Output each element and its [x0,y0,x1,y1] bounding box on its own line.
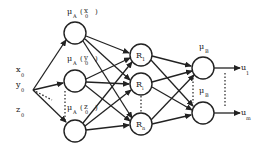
membership-node-x [64,22,86,44]
svg-text:0: 0 [85,60,88,66]
svg-text:A: A [72,13,77,19]
svg-text:): ) [95,104,98,112]
edge-input-m1 [33,40,66,90]
output-labels: u 1 u m [241,63,251,121]
svg-text:B: B [205,48,209,54]
svg-text:1: 1 [246,70,249,76]
svg-text:(: ( [80,8,83,16]
output-membership-node-m [192,102,214,124]
svg-text:): ) [95,8,98,16]
svg-text:μ: μ [199,86,204,95]
svg-text:(: ( [80,55,83,63]
svg-text:1: 1 [142,56,145,62]
svg-text:B: B [205,92,209,98]
svg-text:A: A [72,109,77,115]
svg-text:A: A [72,60,77,66]
svg-text:): ) [95,55,98,63]
svg-text:μ: μ [199,42,204,51]
svg-text:0: 0 [21,72,24,78]
membership-node-y [64,70,86,92]
svg-text:μ: μ [67,54,72,63]
input-z-label: z [16,105,20,114]
input-labels: x 0 y 0 z 0 [15,65,24,118]
svg-text:0: 0 [85,109,88,115]
svg-text:(: ( [80,104,83,112]
svg-text:0: 0 [85,13,88,19]
edge-input-m3 [33,90,66,122]
svg-text:m: m [246,115,251,121]
svg-text:0: 0 [21,87,24,93]
output-membership-node-1 [192,57,214,79]
fuzzy-network-diagram: x 0 y 0 z 0 μ A ( x 0 ) μ A ( y 0 ) μ A … [0,0,255,152]
svg-text:μ: μ [67,7,72,16]
svg-text:μ: μ [67,103,72,112]
svg-text:0: 0 [21,112,24,118]
membership-node-z [64,120,86,142]
